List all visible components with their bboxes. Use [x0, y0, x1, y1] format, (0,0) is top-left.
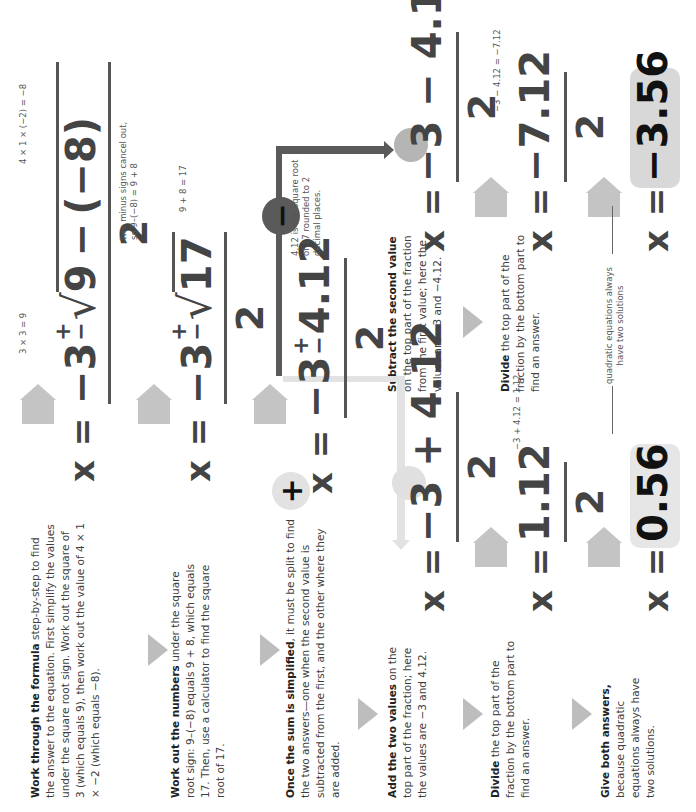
step-heading: Work through the formula: [29, 643, 41, 798]
square-root-icon: √: [54, 292, 105, 320]
equation-1-lhs: x =: [62, 417, 102, 482]
chevron-down-icon: [572, 698, 592, 730]
equation-minus-div-denominator: 2: [568, 72, 612, 182]
radicand-b: (−8): [58, 117, 104, 215]
annotation-two-solutions: quadratic equations alwayshave two solut…: [604, 267, 626, 384]
step-heading: Add the two values: [386, 684, 398, 798]
note-line: quadratic equations always: [604, 267, 614, 384]
fraction-bar: [456, 32, 459, 182]
equation-3-denominator: 2: [348, 258, 392, 418]
step-arrow-icon: [475, 543, 507, 567]
connector-line: [612, 206, 613, 254]
note-line: have two solutions: [615, 286, 625, 366]
note-line: 4.12 is the square root: [290, 160, 300, 256]
equation-3-lhs: x =: [300, 429, 340, 494]
note-line: decimal places.: [312, 190, 322, 256]
equation-plus-div-numerator: 1.12: [512, 443, 558, 542]
equation-2-lhs: x =: [178, 417, 218, 482]
minus-branch-horizontal: [276, 148, 282, 376]
square-root-icon: √: [170, 292, 221, 320]
step-arrow-icon: [254, 400, 286, 424]
step-description-add-values: Add the two values on the top part of th…: [385, 638, 430, 798]
term-a: −3: [174, 343, 220, 404]
rotated-textbook-page: Work through the formula step-by-step to…: [0, 0, 696, 812]
answer-minus-value: −3.56: [630, 50, 676, 182]
answer-plus-lhs: x =: [636, 547, 676, 612]
equation-plus-denominator: 2: [460, 392, 504, 542]
chevron-down-icon: [260, 634, 280, 666]
answer-plus-value: 0.56: [630, 443, 676, 542]
chevron-down-icon: [148, 634, 168, 666]
equation-minus-numerator: −3 − 4.12: [404, 0, 450, 182]
step-heading: Divide: [489, 761, 501, 798]
minus-sign: −: [404, 73, 450, 107]
radicand: 17: [174, 236, 220, 292]
term-b: 4.12: [404, 0, 450, 59]
step-description-divide-plus: Divide the top part of the fraction by t…: [488, 638, 533, 798]
fraction-bar: [564, 462, 567, 542]
plus-sign: +: [404, 433, 450, 467]
term-a: −3: [292, 357, 338, 418]
pm-bottom: −: [306, 336, 331, 354]
chevron-down-icon: [358, 698, 378, 730]
equation-plus-div-lhs: x =: [520, 547, 560, 612]
step-description-work-through: Work through the formula step-by-step to…: [28, 523, 103, 798]
annotation-sqrt17: 4.12 is the square rootof 17 rounded to …: [290, 160, 323, 256]
radical-overbar: [56, 62, 59, 292]
chevron-down-icon: [463, 698, 483, 730]
term-a: −3: [404, 481, 450, 542]
pm-bottom: −: [184, 322, 209, 340]
note-line: of 17 rounded to 2: [301, 177, 311, 256]
equation-minus-lhs: x =: [412, 187, 452, 252]
step-description-work-out-numbers: Work out the numbers under the square ro…: [168, 558, 228, 798]
minus-branch-vertical: [276, 146, 386, 154]
equation-minus-div-lhs: x =: [520, 187, 560, 252]
annotation-nine-plus-eight: 9 + 8 = 17: [178, 165, 189, 212]
minus-sign: −: [58, 223, 104, 257]
plus-minus-sign: +−: [170, 322, 206, 340]
annotation-four-ac: 4 × 1 × (−2) = −8: [18, 84, 29, 164]
fraction-bar: [224, 232, 227, 404]
step-description-give-both: Give both answers, because quadratic equ…: [598, 658, 658, 798]
term-a: −3: [58, 343, 104, 404]
term-a: −3: [404, 121, 450, 182]
equation-3-numerator: −3+−4.12: [292, 236, 338, 419]
equation-1-numerator: −3+−√9−(−8): [54, 117, 105, 404]
fraction-bar: [456, 392, 459, 542]
plus-minus-sign: +−: [54, 322, 90, 340]
chevron-down-icon: [463, 306, 483, 338]
pm-bottom: −: [68, 322, 93, 340]
annotation-minus-cancel: two minus signs cancel out,so 9–(−8) = 9…: [118, 122, 140, 240]
annotation-plus-sum: −3 + 4.12 = 1.12: [512, 375, 523, 450]
step-heading: Once the sum is simplified: [284, 642, 296, 798]
minus-branch-arrowhead-icon: [384, 141, 394, 159]
equation-2-denominator: 2: [228, 232, 272, 404]
annotation-minus-sum: −3 − 4.12 = −7.12: [492, 29, 503, 112]
note-line: two minus signs cancel out,: [118, 122, 128, 240]
equation-plus-lhs: x =: [412, 547, 452, 612]
step-arrow-icon: [588, 193, 620, 217]
step-description-divide-minus: Divide the top part of the fraction by t…: [498, 232, 543, 392]
plus-minus-sign: +−: [292, 336, 328, 354]
term-b: 4.12: [404, 321, 450, 420]
annotation-three-squared: 3 × 3 = 9: [18, 313, 29, 354]
step-body: because quadratic equations always have …: [614, 678, 656, 798]
step-description-once-simplified: Once the sum is simplified, it must be s…: [283, 518, 343, 798]
step-heading: Work out the numbers: [169, 665, 181, 798]
step-arrow-icon: [138, 400, 170, 424]
answer-minus-lhs: x =: [636, 187, 676, 252]
step-heading: Give both answers,: [599, 684, 611, 798]
note-line: so 9–(−8) = 9 + 8: [129, 163, 139, 240]
connector-line: [612, 386, 613, 434]
step-arrow-icon: [22, 400, 54, 424]
radicand-a: 9: [58, 264, 104, 292]
step-arrow-icon: [588, 543, 620, 567]
equation-2-numerator: −3+−√17: [170, 236, 221, 404]
fraction-bar: [344, 258, 347, 418]
equation-plus-numerator: −3 + 4.12: [404, 321, 450, 542]
step-heading: Divide: [499, 355, 511, 392]
fraction-bar: [564, 72, 567, 182]
step-arrow-icon: [475, 193, 507, 217]
equation-minus-div-numerator: −7.12: [512, 50, 558, 182]
fraction-bar: [108, 62, 111, 404]
